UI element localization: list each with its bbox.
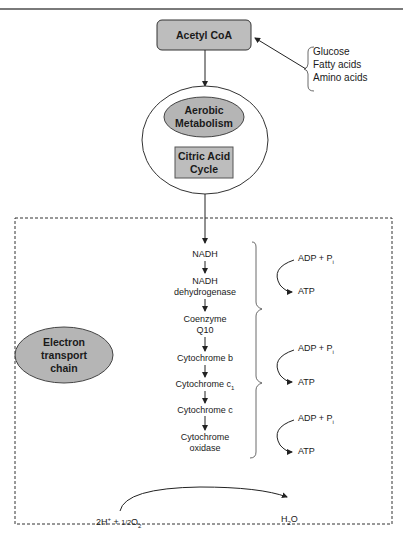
citric-label-2: Cycle bbox=[175, 163, 233, 176]
reaction-product: H2O bbox=[281, 514, 298, 529]
product-o: O bbox=[291, 514, 298, 524]
source-amino-acids: Amino acids bbox=[313, 71, 367, 84]
adp-3: ADP + Pi bbox=[298, 413, 334, 428]
cyt-c1-sub: 1 bbox=[231, 385, 234, 391]
chain-nadh: NADH bbox=[150, 249, 260, 260]
adp-3-sub: i bbox=[333, 419, 334, 425]
chain-nadh-dh-2: dehydrogenase bbox=[150, 287, 260, 298]
adp-1-sub: i bbox=[333, 259, 334, 265]
adp-1-text: ADP + P bbox=[298, 253, 333, 263]
adp-3-text: ADP + P bbox=[298, 413, 333, 423]
chain-cyt-ox-1: Cytochrome bbox=[150, 432, 260, 443]
etc-label-2: transport bbox=[15, 349, 113, 362]
adp-2-sub: i bbox=[333, 349, 334, 355]
citric-label-1: Citric Acid bbox=[175, 150, 233, 163]
chain-cyt-ox-2: oxidase bbox=[150, 443, 260, 454]
cyt-c1-text: Cytochrome c bbox=[176, 379, 232, 389]
chain-cyt-c1: Cytochrome c1 bbox=[150, 379, 260, 394]
chain-cyt-b: Cytochrome b bbox=[150, 353, 260, 364]
source-glucose: Glucose bbox=[313, 45, 350, 58]
complex-braces bbox=[250, 242, 262, 458]
adp-2-text: ADP + P bbox=[298, 343, 333, 353]
acetyl-coa-label: Acetyl CoA bbox=[157, 29, 251, 42]
chain-coq10-1: Coenzyme bbox=[150, 314, 260, 325]
aerobic-label-1: Aerobic bbox=[164, 104, 244, 117]
etc-label-3: chain bbox=[15, 362, 113, 375]
chain-coq10-2: Q10 bbox=[150, 325, 260, 336]
atp-1: ATP bbox=[298, 286, 315, 297]
reactant-o: O bbox=[131, 517, 138, 527]
sources-arrow bbox=[255, 38, 306, 69]
adp-2: ADP + Pi bbox=[298, 343, 334, 358]
chain-cyt-c: Cytochrome c bbox=[150, 405, 260, 416]
reactant-o-sub: 2 bbox=[138, 523, 141, 529]
reaction-reactant: 2H+ + 1/2O2 bbox=[96, 514, 141, 532]
atp-arrows bbox=[277, 260, 294, 452]
atp-2: ATP bbox=[298, 377, 315, 388]
atp-3: ATP bbox=[298, 446, 315, 457]
reactant-half: 1/2 bbox=[121, 519, 131, 526]
source-fatty-acids: Fatty acids bbox=[313, 58, 361, 71]
reactant-h: 2H bbox=[96, 517, 108, 527]
reactant-plus: + bbox=[111, 517, 121, 527]
oxygen-reaction-arrow bbox=[120, 487, 287, 511]
aerobic-label-2: Metabolism bbox=[164, 117, 244, 130]
chain-nadh-dh-1: NADH bbox=[150, 276, 260, 287]
etc-label-1: Electron bbox=[15, 336, 113, 349]
adp-1: ADP + Pi bbox=[298, 253, 334, 268]
